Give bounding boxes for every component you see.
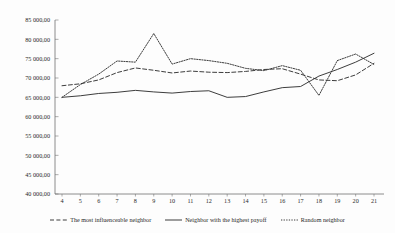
x-axis-tick-labels: 456789101112131415161718192021 (60, 197, 377, 204)
y-axis-tick-marks (55, 20, 59, 194)
y-tick-label: 40 000,00 (25, 190, 50, 197)
y-tick-label: 55 000,00 (25, 132, 50, 139)
y-tick-label: 85 000,00 (25, 16, 50, 23)
x-tick-label: 6 (97, 197, 100, 204)
x-tick-label: 17 (297, 197, 303, 204)
dotted-line-swatch (281, 217, 298, 223)
x-tick-label: 14 (242, 197, 248, 204)
y-axis-tick-labels: 40 000,0045 000,0050 000,0055 000,0060 0… (25, 16, 50, 197)
y-tick-label: 75 000,00 (25, 55, 50, 62)
legend-item-label: Neighbor with the highest payoff (185, 217, 266, 223)
dashed-line-swatch (50, 217, 67, 223)
solid-line-swatch (165, 217, 182, 223)
x-tick-label: 9 (152, 197, 155, 204)
x-tick-label: 5 (79, 197, 82, 204)
x-tick-label: 21 (371, 197, 377, 204)
y-tick-label: 50 000,00 (25, 152, 50, 159)
series-line (62, 53, 374, 97)
chart-figure: 40 000,0045 000,0050 000,0055 000,0060 0… (0, 0, 395, 233)
legend-item-label: Random neighbor (301, 217, 345, 223)
x-tick-label: 15 (261, 197, 267, 204)
y-tick-label: 70 000,00 (25, 74, 50, 81)
legend-item[interactable]: The most influenceable neighbor (50, 217, 151, 223)
series-line (62, 34, 374, 98)
y-tick-label: 80 000,00 (25, 36, 50, 43)
y-tick-label: 45 000,00 (25, 171, 50, 178)
x-tick-label: 13 (224, 197, 230, 204)
y-tick-label: 60 000,00 (25, 113, 50, 120)
line-chart-svg: 40 000,0045 000,0050 000,0055 000,0060 0… (0, 0, 395, 205)
plot-area: 40 000,0045 000,0050 000,0055 000,0060 0… (0, 0, 395, 205)
x-tick-label: 10 (169, 197, 175, 204)
x-tick-label: 20 (353, 197, 359, 204)
x-tick-label: 12 (206, 197, 212, 204)
legend-item[interactable]: Random neighbor (281, 217, 345, 223)
legend-item-label: The most influenceable neighbor (70, 217, 151, 223)
chart-legend: The most influenceable neighborNeighbor … (0, 206, 395, 233)
data-series-group (62, 34, 374, 98)
x-tick-label: 19 (334, 197, 340, 204)
legend-item[interactable]: Neighbor with the highest payoff (165, 217, 266, 223)
x-tick-label: 11 (187, 197, 193, 204)
x-tick-label: 8 (134, 197, 137, 204)
y-tick-label: 65 000,00 (25, 94, 50, 101)
x-tick-label: 7 (116, 197, 119, 204)
x-tick-label: 18 (316, 197, 322, 204)
x-tick-label: 16 (279, 197, 285, 204)
x-tick-label: 4 (60, 197, 63, 204)
